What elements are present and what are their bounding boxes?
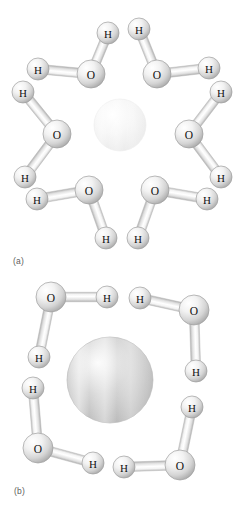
hydrogen-label: H [35, 352, 43, 364]
hydrogen-label: H [21, 172, 29, 184]
oxygen-label: O [47, 292, 55, 304]
oxygen-label: O [153, 69, 161, 81]
hydrogen-label: H [103, 292, 111, 304]
oxygen-atom: O [179, 295, 209, 325]
oxygen-atom: O [77, 60, 105, 88]
hydrogen-atom: H [28, 346, 50, 368]
panel-b-stage: OHHOHHOHHOHH [0, 255, 247, 509]
oxygen-label: O [85, 185, 93, 197]
water-molecule-bottom-left: OHH [26, 176, 117, 249]
oxygen-atom: O [43, 120, 71, 148]
hydrogen-label: H [205, 63, 213, 75]
hydrogen-atom: H [128, 18, 150, 40]
panel-label-b: (b) [14, 486, 25, 496]
hydrogen-atom: H [82, 452, 104, 474]
water-molecule-right: OHH [175, 81, 232, 188]
panel-b-anion-hydration: OHHOHHOHHOHH [0, 255, 247, 509]
hydrogen-atom: H [210, 166, 232, 188]
panel-a-scene: OHHOHHOHHOHHOHHOHH [0, 0, 247, 255]
hydrogen-label: H [136, 293, 144, 305]
oxygen-label: O [53, 129, 61, 141]
hydrogen-label: H [217, 172, 225, 184]
oxygen-label: O [190, 305, 198, 317]
oxygen-atom: O [141, 176, 169, 204]
anion-sphere [67, 337, 153, 423]
cation-sphere [94, 99, 146, 151]
hydrogen-label: H [134, 233, 142, 245]
oxygen-label: O [151, 185, 159, 197]
oxygen-label: O [176, 460, 184, 472]
oxygen-atom: O [75, 176, 103, 204]
hydrogen-atom: H [14, 166, 36, 188]
water-molecule-top-left: OHH [27, 22, 119, 88]
hydrogen-label: H [19, 87, 27, 99]
hydrogen-atom: H [127, 227, 149, 249]
hydrogen-label: H [104, 28, 112, 40]
water-molecule-top-right: OHH [128, 18, 220, 88]
hydration-shell-figure: OHHOHHOHHOHHOHHOHH OHHOHHOHHOHH (a) (b) [0, 0, 247, 509]
water-molecule-left: OHH [12, 81, 71, 188]
hydrogen-atom: H [129, 287, 151, 309]
oxygen-label: O [34, 443, 42, 455]
hydrogen-atom: H [12, 81, 34, 103]
oxygen-label: O [87, 69, 95, 81]
hydrogen-atom: H [96, 286, 118, 308]
panel-a-cation-hydration: OHHOHHOHHOHHOHHOHH [0, 0, 247, 255]
oxygen-atom: O [143, 60, 171, 88]
hydrogen-label: H [217, 87, 225, 99]
panel-a-stage: OHHOHHOHHOHHOHHOHH [0, 0, 247, 255]
hydrogen-atom: H [113, 456, 135, 478]
hydrogen-label: H [203, 194, 211, 206]
oxygen-atom: O [23, 433, 53, 463]
hydrogen-label: H [192, 366, 200, 378]
water-molecule-bottom-right: OHH [127, 176, 218, 249]
oxygen-atom: O [175, 120, 203, 148]
hydrogen-label: H [120, 462, 128, 474]
hydrogen-label: H [29, 383, 37, 395]
hydrogen-atom: H [198, 57, 220, 79]
oxygen-atom: O [165, 450, 195, 480]
hydrogen-atom: H [196, 188, 218, 210]
hydrogen-label: H [135, 24, 143, 36]
hydrogen-atom: H [185, 360, 207, 382]
hydrogen-label: H [34, 64, 42, 76]
panel-label-a: (a) [13, 256, 24, 266]
hydrogen-atom: H [210, 81, 232, 103]
panel-b-scene: OHHOHHOHHOHH [0, 255, 247, 509]
oxygen-atom: O [36, 282, 66, 312]
hydrogen-label: H [102, 233, 110, 245]
hydrogen-label: H [188, 402, 196, 414]
oxygen-label: O [185, 129, 193, 141]
hydrogen-atom: H [181, 396, 203, 418]
hydrogen-atom: H [27, 58, 49, 80]
hydrogen-atom: H [26, 188, 48, 210]
hydrogen-label: H [33, 194, 41, 206]
hydrogen-atom: H [97, 22, 119, 44]
hydrogen-atom: H [95, 227, 117, 249]
hydrogen-label: H [89, 458, 97, 470]
hydrogen-atom: H [22, 377, 44, 399]
